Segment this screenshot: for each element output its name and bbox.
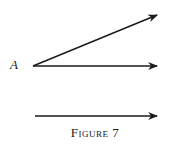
- figure-diagram: [0, 0, 169, 145]
- figure-caption: Figure 7: [0, 125, 169, 141]
- upper-ray: [33, 15, 157, 66]
- point-a-label: A: [10, 57, 18, 73]
